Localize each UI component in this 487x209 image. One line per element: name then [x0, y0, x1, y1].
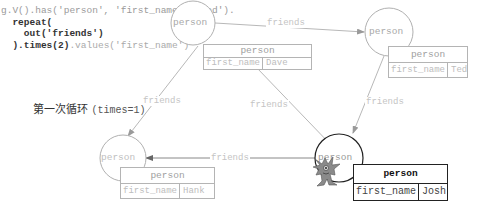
vertex-ted-circle-label: person: [369, 26, 403, 37]
vertex-dave-circle-label: person: [173, 17, 207, 28]
edge-label-dave-josh: friends: [249, 100, 289, 110]
vertex-box-dave-label: person: [204, 45, 311, 58]
vertex-box-ted[interactable]: person first_name Ted: [388, 46, 468, 78]
iteration-label: 第一次循环 (times=1): [33, 100, 146, 116]
property-key: first_name: [354, 184, 419, 200]
edge-dave-hank: [128, 46, 198, 136]
vertex-box-josh[interactable]: person first_name Josh: [353, 164, 448, 201]
edge-label-dave-hank: friends: [142, 96, 182, 106]
vertex-box-ted-label: person: [389, 47, 467, 63]
property-value: Dave: [263, 58, 291, 69]
gremlin-icon: [311, 155, 343, 189]
property-value: Ted: [448, 63, 470, 77]
edge-ted-josh: [353, 56, 384, 133]
edge-label-josh-hank: friends: [210, 153, 250, 163]
vertex-hank-circle-label: person: [101, 152, 135, 163]
vertex-box-hank[interactable]: person first_name Hank: [120, 167, 215, 199]
vertex-box-dave[interactable]: person first_name Dave: [203, 44, 312, 70]
edge-label-dave-ted: friends: [266, 18, 306, 28]
property-value: Hank: [180, 184, 208, 198]
vertex-box-josh-label: person: [354, 165, 447, 184]
property-key: first_name: [121, 184, 180, 198]
vertex-box-hank-label: person: [121, 168, 214, 184]
edge-label-ted-josh: friends: [365, 97, 405, 107]
iteration-label-text: 第一次循环: [33, 103, 88, 116]
property-key: first_name: [389, 63, 448, 77]
iteration-label-param: (times=1): [92, 105, 146, 116]
property-value: Josh: [419, 184, 449, 200]
property-key: first_name: [204, 58, 263, 69]
